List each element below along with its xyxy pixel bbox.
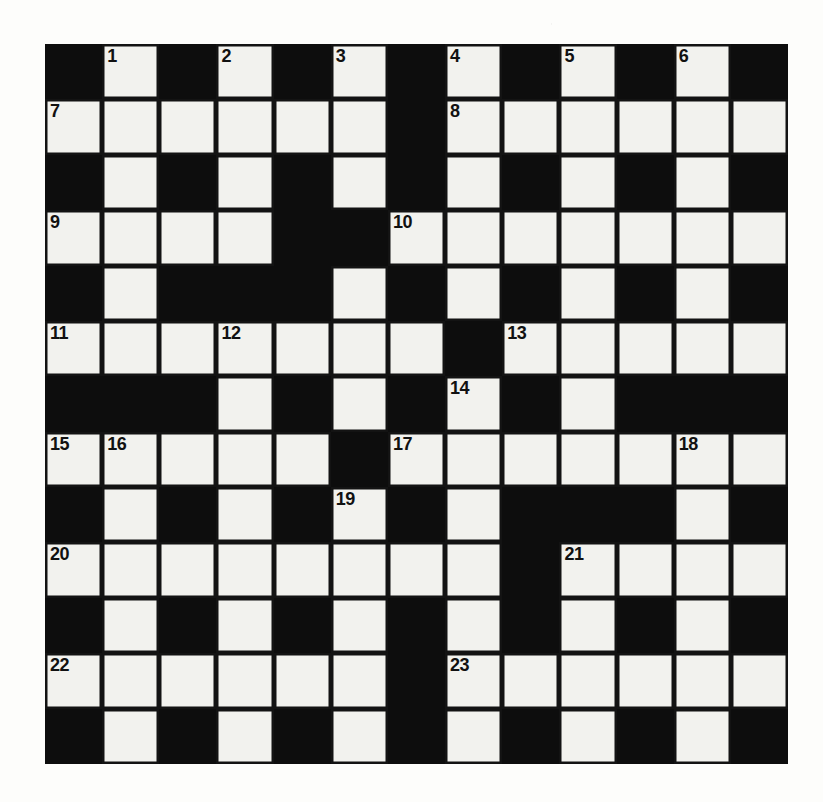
crossword-cell[interactable] [502, 653, 559, 708]
crossword-cell[interactable] [731, 99, 788, 154]
crossword-cell[interactable] [331, 99, 388, 154]
crossword-cell[interactable] [274, 542, 331, 597]
crossword-cell[interactable] [674, 653, 731, 708]
crossword-cell[interactable] [159, 99, 216, 154]
crossword-cell[interactable] [216, 210, 273, 265]
crossword-cell[interactable] [502, 99, 559, 154]
crossword-cell[interactable]: 2 [216, 44, 273, 99]
crossword-cell[interactable] [102, 709, 159, 764]
crossword-cell[interactable] [159, 432, 216, 487]
crossword-cell[interactable] [102, 542, 159, 597]
crossword-cell[interactable] [731, 432, 788, 487]
crossword-cell[interactable] [674, 487, 731, 542]
crossword-cell[interactable] [331, 653, 388, 708]
crossword-cell[interactable] [274, 321, 331, 376]
crossword-cell[interactable] [731, 653, 788, 708]
crossword-cell[interactable] [159, 210, 216, 265]
crossword-cell[interactable] [445, 487, 502, 542]
crossword-cell[interactable] [445, 709, 502, 764]
crossword-cell[interactable]: 23 [445, 653, 502, 708]
crossword-cell[interactable] [216, 432, 273, 487]
crossword-cell[interactable] [445, 210, 502, 265]
crossword-cell[interactable] [731, 321, 788, 376]
crossword-cell[interactable] [674, 542, 731, 597]
crossword-cell[interactable]: 20 [45, 542, 102, 597]
crossword-cell[interactable]: 15 [45, 432, 102, 487]
crossword-cell[interactable]: 10 [388, 210, 445, 265]
crossword-cell[interactable] [159, 653, 216, 708]
crossword-cell[interactable] [159, 542, 216, 597]
crossword-cell[interactable] [102, 266, 159, 321]
crossword-cell[interactable] [674, 266, 731, 321]
crossword-cell[interactable] [159, 321, 216, 376]
crossword-cell[interactable] [274, 99, 331, 154]
crossword-cell[interactable]: 6 [674, 44, 731, 99]
crossword-cell[interactable]: 19 [331, 487, 388, 542]
crossword-cell[interactable] [102, 598, 159, 653]
crossword-cell[interactable] [331, 266, 388, 321]
crossword-cell[interactable]: 22 [45, 653, 102, 708]
crossword-cell[interactable] [617, 210, 674, 265]
crossword-cell[interactable] [559, 653, 616, 708]
crossword-cell[interactable] [674, 321, 731, 376]
crossword-cell[interactable]: 8 [445, 99, 502, 154]
crossword-cell[interactable]: 21 [559, 542, 616, 597]
crossword-cell[interactable] [559, 266, 616, 321]
crossword-cell[interactable]: 13 [502, 321, 559, 376]
crossword-cell[interactable] [502, 210, 559, 265]
crossword-cell[interactable] [331, 542, 388, 597]
crossword-cell[interactable] [617, 432, 674, 487]
crossword-cell[interactable] [731, 542, 788, 597]
crossword-cell[interactable]: 3 [331, 44, 388, 99]
crossword-cell[interactable] [216, 542, 273, 597]
crossword-cell[interactable] [102, 487, 159, 542]
crossword-cell[interactable] [216, 155, 273, 210]
crossword-cell[interactable] [731, 210, 788, 265]
crossword-cell[interactable] [216, 376, 273, 431]
crossword-cell[interactable] [559, 598, 616, 653]
crossword-cell[interactable] [216, 99, 273, 154]
crossword-cell[interactable] [274, 432, 331, 487]
crossword-cell[interactable] [445, 598, 502, 653]
crossword-cell[interactable] [674, 709, 731, 764]
crossword-cell[interactable]: 16 [102, 432, 159, 487]
crossword-cell[interactable] [559, 155, 616, 210]
crossword-cell[interactable]: 4 [445, 44, 502, 99]
crossword-grid[interactable]: 1234567891011121314151617181920212223 [45, 44, 788, 764]
crossword-cell[interactable] [216, 653, 273, 708]
crossword-cell[interactable] [331, 155, 388, 210]
crossword-cell[interactable] [617, 542, 674, 597]
crossword-cell[interactable]: 1 [102, 44, 159, 99]
crossword-cell[interactable] [331, 598, 388, 653]
crossword-cell[interactable] [502, 432, 559, 487]
crossword-cell[interactable]: 18 [674, 432, 731, 487]
crossword-cell[interactable] [559, 99, 616, 154]
crossword-cell[interactable] [102, 155, 159, 210]
crossword-cell[interactable] [559, 321, 616, 376]
crossword-cell[interactable] [445, 432, 502, 487]
crossword-cell[interactable] [559, 709, 616, 764]
crossword-cell[interactable] [445, 266, 502, 321]
crossword-cell[interactable] [445, 155, 502, 210]
crossword-cell[interactable]: 14 [445, 376, 502, 431]
crossword-cell[interactable] [331, 321, 388, 376]
crossword-cell[interactable] [216, 709, 273, 764]
crossword-cell[interactable] [102, 321, 159, 376]
crossword-cell[interactable] [559, 432, 616, 487]
crossword-cell[interactable]: 11 [45, 321, 102, 376]
crossword-cell[interactable] [388, 321, 445, 376]
crossword-cell[interactable] [331, 376, 388, 431]
crossword-cell[interactable] [274, 653, 331, 708]
crossword-cell[interactable] [331, 709, 388, 764]
crossword-cell[interactable] [559, 210, 616, 265]
crossword-cell[interactable] [674, 99, 731, 154]
crossword-cell[interactable]: 9 [45, 210, 102, 265]
crossword-cell[interactable] [559, 376, 616, 431]
crossword-cell[interactable] [216, 487, 273, 542]
crossword-cell[interactable] [674, 155, 731, 210]
crossword-cell[interactable]: 17 [388, 432, 445, 487]
crossword-cell[interactable] [674, 598, 731, 653]
crossword-cell[interactable]: 7 [45, 99, 102, 154]
crossword-cell[interactable] [102, 210, 159, 265]
crossword-cell[interactable] [102, 653, 159, 708]
